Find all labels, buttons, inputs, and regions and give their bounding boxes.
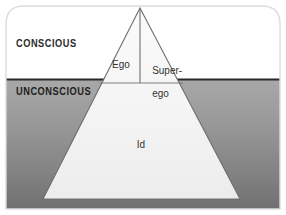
freud-psyche-diagram: CONSCIOUS UNCONSCIOUS Ego Super- ego Id: [0, 0, 286, 215]
ego-label: Ego: [107, 60, 135, 70]
conscious-region-label: CONSCIOUS: [16, 38, 77, 49]
superego-label: Super- ego: [141, 53, 179, 111]
superego-label-line2: ego: [152, 88, 169, 99]
superego-label-line1: Super-: [152, 65, 182, 76]
id-label: Id: [126, 140, 156, 150]
unconscious-region-label: UNCONSCIOUS: [16, 86, 91, 97]
